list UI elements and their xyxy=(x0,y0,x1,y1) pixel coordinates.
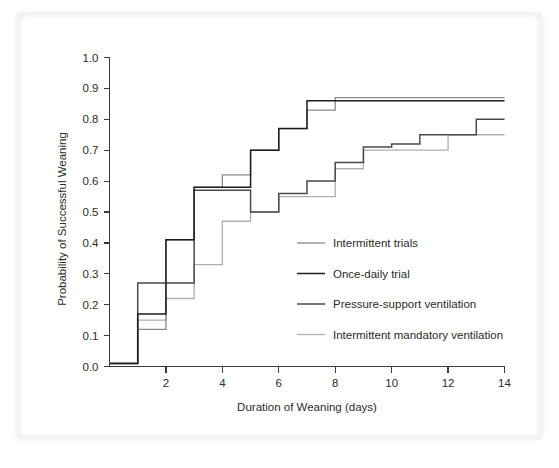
y-tick-label: 0.4 xyxy=(83,237,100,249)
y-tick-label: 0.9 xyxy=(83,82,99,94)
x-axis-title: Duration of Weaning (days) xyxy=(237,401,377,413)
data-series-group xyxy=(110,98,505,364)
y-tick-label: 0.6 xyxy=(83,175,99,187)
y-tick-label: 1.0 xyxy=(83,52,99,64)
x-tick-label: 8 xyxy=(332,377,338,389)
y-tick-label: 0.7 xyxy=(83,144,99,156)
series-line xyxy=(110,98,505,364)
legend-label: Once-daily trial xyxy=(333,268,410,280)
y-tick-label: 0.0 xyxy=(83,361,99,373)
x-axis-ticks xyxy=(166,367,505,373)
y-tick-label: 0.8 xyxy=(83,113,99,125)
series-line xyxy=(110,101,505,364)
legend-label: Pressure-support ventilation xyxy=(333,298,476,310)
series-line xyxy=(110,119,505,363)
x-tick-label: 10 xyxy=(385,377,398,389)
x-tick-label: 2 xyxy=(163,377,169,389)
y-tick-label: 0.2 xyxy=(83,299,99,311)
x-tick-label: 4 xyxy=(219,377,226,389)
legend-label: Intermittent mandatory ventilation xyxy=(333,329,503,341)
x-tick-label: 14 xyxy=(498,377,511,389)
y-tick-label: 0.5 xyxy=(83,206,99,218)
chart-legend: Intermittent trialsOnce-daily trialPress… xyxy=(297,237,503,341)
y-axis-tick-labels: 0.00.10.20.30.40.50.60.70.80.91.0 xyxy=(83,52,100,373)
survival-curve-chart: 0.00.10.20.30.40.50.60.70.80.91.0 246810… xyxy=(0,0,559,468)
x-axis-tick-labels: 2468101214 xyxy=(163,377,512,389)
x-tick-label: 12 xyxy=(442,377,455,389)
y-axis-ticks xyxy=(104,58,110,367)
x-tick-label: 6 xyxy=(276,377,282,389)
y-axis-title: Probability of Successful Weaning xyxy=(56,132,68,306)
y-tick-label: 0.3 xyxy=(83,268,99,280)
legend-label: Intermittent trials xyxy=(333,237,418,249)
figure-root: 0.00.10.20.30.40.50.60.70.80.91.0 246810… xyxy=(0,0,559,468)
y-tick-label: 0.1 xyxy=(83,330,99,342)
